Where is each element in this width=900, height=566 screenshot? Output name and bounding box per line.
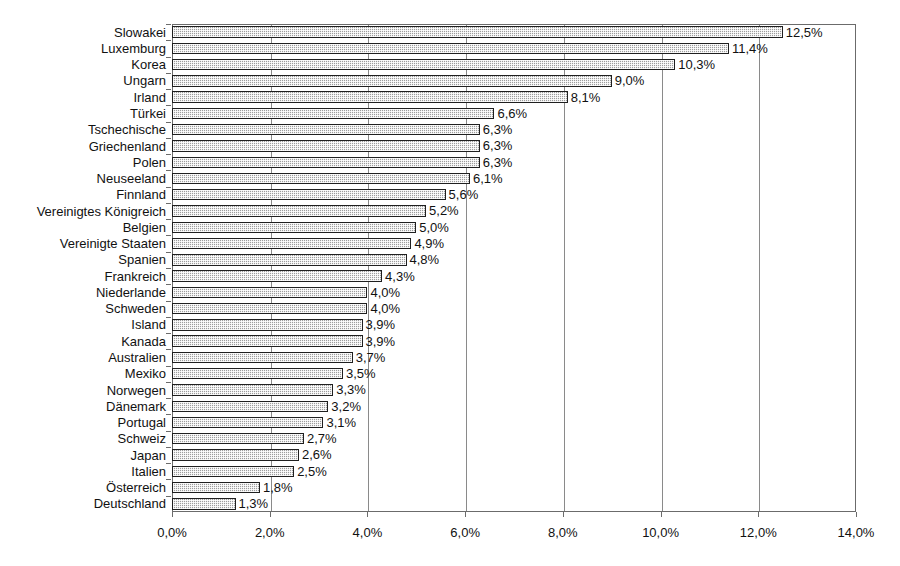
bar-value-label: 2,5% [297, 463, 327, 480]
bar[interactable] [172, 26, 783, 37]
bar-value-label: 11,4% [732, 40, 768, 57]
bar-row: 5,2% [172, 203, 856, 220]
bar-value-label: 3,9% [366, 333, 396, 350]
bar[interactable] [172, 401, 328, 412]
category-tick [166, 57, 171, 58]
bar[interactable] [172, 43, 729, 54]
bar[interactable] [172, 173, 470, 184]
value-tick-label: 10,0% [642, 525, 679, 541]
category-label: Polen [0, 154, 166, 171]
bar-value-label: 6,1% [473, 170, 503, 187]
bar[interactable] [172, 482, 260, 493]
category-tick [166, 235, 171, 236]
bar[interactable] [172, 433, 304, 444]
value-tick-label: 4,0% [353, 525, 383, 541]
bar[interactable] [172, 75, 612, 86]
bar-row: 4,0% [172, 284, 856, 301]
bar[interactable] [172, 157, 480, 168]
bar-value-label: 5,0% [419, 219, 449, 236]
bar-value-label: 4,0% [370, 284, 400, 301]
bar-row: 2,5% [172, 463, 856, 480]
category-tick [166, 138, 171, 139]
bar-row: 3,5% [172, 366, 856, 383]
bar-chart: SlowakeiLuxemburgKoreaUngarnIrlandTürkei… [0, 0, 900, 566]
bar-value-label: 3,3% [336, 381, 366, 398]
bar-row: 3,3% [172, 382, 856, 399]
bar-row: 5,0% [172, 219, 856, 236]
bar[interactable] [172, 238, 411, 249]
category-label: Frankreich [0, 268, 166, 285]
bar[interactable] [172, 205, 426, 216]
bar-row: 11,4% [172, 40, 856, 57]
category-tick [166, 268, 171, 269]
category-tick [166, 187, 171, 188]
bar-value-label: 4,8% [410, 251, 440, 268]
category-label: Irland [0, 89, 166, 106]
bar[interactable] [172, 91, 568, 102]
bar[interactable] [172, 352, 353, 363]
value-tick [856, 512, 857, 517]
bar-row: 3,1% [172, 414, 856, 431]
bar[interactable] [172, 319, 363, 330]
bar-value-label: 2,7% [307, 430, 337, 447]
bar[interactable] [172, 140, 480, 151]
bar-row: 4,0% [172, 301, 856, 318]
bar-value-label: 3,2% [331, 398, 361, 415]
category-tick [166, 301, 171, 302]
category-label: Finnland [0, 186, 166, 203]
value-tick [758, 512, 759, 517]
category-label: Vereinigtes Königreich [0, 203, 166, 220]
bar-series: 12,5%11,4%10,3%9,0%8,1%6,6%6,3%6,3%6,3%6… [172, 24, 856, 512]
category-label: Kanada [0, 333, 166, 350]
category-label: Island [0, 316, 166, 333]
value-tick [661, 512, 662, 517]
category-label: Spanien [0, 251, 166, 268]
bar-row: 6,6% [172, 105, 856, 122]
bar[interactable] [172, 124, 480, 135]
bar[interactable] [172, 254, 407, 265]
category-label: Ungarn [0, 72, 166, 89]
bar-row: 8,1% [172, 89, 856, 106]
bar-value-label: 1,3% [239, 495, 269, 512]
bar-value-label: 1,8% [263, 479, 293, 496]
bar[interactable] [172, 59, 675, 70]
bar[interactable] [172, 108, 494, 119]
bar-value-label: 5,2% [429, 202, 459, 219]
bar-row: 5,6% [172, 187, 856, 204]
category-label: Korea [0, 56, 166, 73]
bar[interactable] [172, 335, 363, 346]
category-tick [166, 105, 171, 106]
bar[interactable] [172, 189, 446, 200]
category-label: Slowakei [0, 24, 166, 41]
bar[interactable] [172, 287, 367, 298]
bar[interactable] [172, 368, 343, 379]
bar-row: 1,3% [172, 496, 856, 513]
bar[interactable] [172, 384, 333, 395]
bar-value-label: 2,6% [302, 446, 332, 463]
value-tick-label: 12,0% [740, 525, 777, 541]
category-tick [166, 366, 171, 367]
category-label: Mexiko [0, 365, 166, 382]
category-label: Griechenland [0, 138, 166, 155]
category-label: Norwegen [0, 382, 166, 399]
bar[interactable] [172, 449, 299, 460]
bar[interactable] [172, 303, 367, 314]
bar[interactable] [172, 222, 416, 233]
bar[interactable] [172, 498, 236, 509]
category-tick [166, 89, 171, 90]
value-tick-label: 6,0% [450, 525, 480, 541]
category-label: Japan [0, 447, 166, 464]
bar-row: 2,6% [172, 447, 856, 464]
bar[interactable] [172, 417, 323, 428]
bar-value-label: 3,1% [326, 414, 356, 431]
bar[interactable] [172, 270, 382, 281]
bar[interactable] [172, 466, 294, 477]
bar-row: 3,9% [172, 333, 856, 350]
bar-value-label: 4,0% [370, 300, 400, 317]
bar-value-label: 9,0% [615, 72, 645, 89]
category-label: Neuseeland [0, 170, 166, 187]
category-label: Türkei [0, 105, 166, 122]
bar-value-label: 4,9% [414, 235, 444, 252]
bar-row: 12,5% [172, 24, 856, 41]
bar-row: 3,7% [172, 349, 856, 366]
